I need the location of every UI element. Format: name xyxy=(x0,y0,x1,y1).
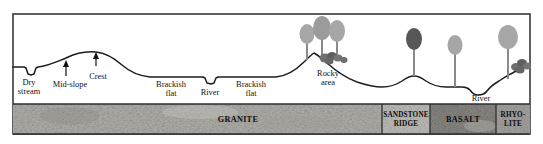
rock-label-sandstone-line2: RIDGE xyxy=(394,120,419,128)
label-dry-stream-line1: Dry xyxy=(22,78,36,87)
rock-band-granite xyxy=(13,104,382,134)
cross-section-svg: Dry stream Mid-slope Crest Brackish flat… xyxy=(0,0,543,144)
geological-cross-section-figure: Dry stream Mid-slope Crest Brackish flat… xyxy=(0,0,543,144)
rock-label-granite: GRANITE xyxy=(218,115,259,124)
label-river-left: River xyxy=(201,88,220,97)
label-rocky-area-line1: Rocky xyxy=(317,69,340,78)
rock-label-rhyolite-line2: LITE xyxy=(504,120,522,128)
label-brackish-flat-right-line1: Brackish xyxy=(236,80,267,89)
label-crest: Crest xyxy=(89,72,107,81)
rock-label-rhyolite-line1: RHYO- xyxy=(501,111,526,119)
label-mid-slope: Mid-slope xyxy=(53,80,88,89)
rock-label-basalt: BASALT xyxy=(446,115,480,124)
label-brackish-flat-left-line1: Brackish xyxy=(156,80,187,89)
label-dry-stream-line2: stream xyxy=(18,87,41,96)
rock-band-sandstone xyxy=(382,104,430,134)
label-brackish-flat-right-line2: flat xyxy=(245,89,257,98)
rock-band-rhyolite xyxy=(496,104,530,134)
label-brackish-flat-left-line2: flat xyxy=(165,89,177,98)
label-river-right: River xyxy=(472,94,491,103)
label-rocky-area-line2: area xyxy=(321,78,335,87)
rock-label-sandstone-line1: SANDSTONE xyxy=(383,111,429,119)
